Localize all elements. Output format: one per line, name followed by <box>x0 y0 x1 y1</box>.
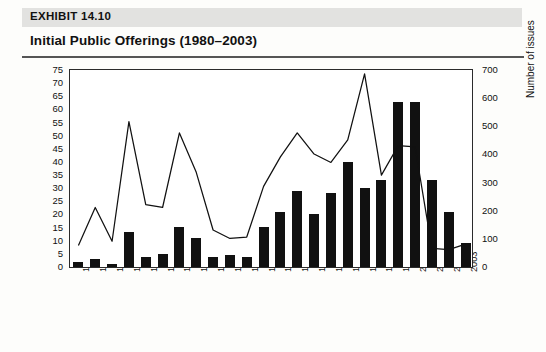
issues-line <box>78 74 465 250</box>
left-tick-35: 35 <box>41 169 63 180</box>
left-tick-75: 75 <box>41 64 63 75</box>
left-tick-40: 40 <box>41 156 63 167</box>
left-tick-25: 25 <box>41 195 63 206</box>
plot-area <box>69 69 473 268</box>
chart-page: EXHIBIT 14.10 Initial Public Offerings (… <box>0 0 546 352</box>
right-tick-0: 0 <box>482 261 508 272</box>
right-tick-200: 200 <box>482 205 508 216</box>
right-tick-600: 600 <box>482 92 508 103</box>
left-tick-65: 65 <box>41 90 63 101</box>
right-tick-700: 700 <box>482 64 508 75</box>
exhibit-number: EXHIBIT 14.10 <box>30 10 111 22</box>
right-tick-500: 500 <box>482 120 508 131</box>
left-tick-20: 20 <box>41 208 63 219</box>
left-tick-60: 60 <box>41 103 63 114</box>
plot-inner <box>70 70 472 267</box>
page-title: Initial Public Offerings (1980–2003) <box>30 33 257 48</box>
right-tick-100: 100 <box>482 233 508 244</box>
left-tick-30: 30 <box>41 182 63 193</box>
right-tick-400: 400 <box>482 148 508 159</box>
left-tick-10: 10 <box>41 235 63 246</box>
left-tick-55: 55 <box>41 117 63 128</box>
chart-legend: Gross proceeds Number of issues <box>0 310 546 350</box>
right-axis-label: Number of issues <box>525 20 536 98</box>
left-tick-15: 15 <box>41 222 63 233</box>
left-tick-0: 0 <box>41 261 63 272</box>
line-series <box>70 70 474 269</box>
left-tick-45: 45 <box>41 143 63 154</box>
left-tick-70: 70 <box>41 77 63 88</box>
right-tick-300: 300 <box>482 177 508 188</box>
left-tick-5: 5 <box>41 248 63 259</box>
header-divider <box>22 56 524 58</box>
left-tick-50: 50 <box>41 130 63 141</box>
